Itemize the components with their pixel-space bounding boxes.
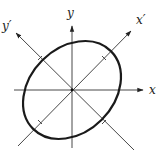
x-axis-label: x [149,83,156,97]
x-prime-axis-label: x′ [136,13,146,27]
y-prime-axis [16,33,134,150]
rotated-ellipse-diagram: x y x′ y′ [0,0,163,154]
y-axis-label: y [66,6,74,20]
origin-point [71,89,74,92]
x-prime-axis [18,31,131,146]
y-prime-axis-label: y′ [1,19,12,33]
